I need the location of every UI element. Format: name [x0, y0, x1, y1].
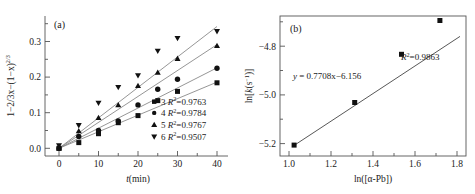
panel-b-ytick-0: −4.8 — [259, 42, 276, 52]
panel-a-x-ticks — [59, 151, 217, 156]
panel-a-plot: 0.0 0.1 0.2 0.3 0 10 20 30 40 (a) — [0, 0, 237, 194]
panel-b-ytick-2: −5.2 — [259, 139, 276, 149]
panel-b-xtick-3: 1.6 — [409, 159, 421, 169]
panel-b-tag: (b) — [290, 23, 302, 35]
legend-item-4: 4 R2=0.9784 — [152, 107, 207, 118]
panel-a-series-6-points — [56, 29, 220, 148]
legend-label-4: 4 R2=0.9784 — [161, 107, 207, 118]
panel-b-r2-value: =0.9863 — [410, 52, 440, 62]
panel-a-xtick-1: 10 — [94, 159, 104, 169]
panel-a-xtick-4: 40 — [212, 159, 222, 169]
legend-r2-val-4: =0.9784 — [176, 108, 206, 118]
panel-a-y-ticks — [45, 24, 50, 149]
panel-b-yaxis-pre: ln[ — [244, 93, 254, 104]
panel-b-xtick-0: 1.0 — [283, 159, 295, 169]
panel-b-y-ticks — [280, 22, 285, 144]
panel-a-yaxis-title: 1−2/3x−(1−x)2/3 — [4, 55, 17, 116]
panel-a: 0.0 0.1 0.2 0.3 0 10 20 30 40 (a) — [0, 0, 237, 194]
panel-b-ytick-1: −5.0 — [259, 90, 276, 100]
panel-b-plot: −4.8 −5.0 −5.2 1.0 1.2 1.4 1.6 1.8 (b) — [238, 0, 475, 194]
panel-a-ytick-3: 0.3 — [29, 37, 41, 47]
figure-container: 0.0 0.1 0.2 0.3 0 10 20 30 40 (a) — [0, 0, 475, 194]
panel-a-xtick-3: 30 — [173, 159, 183, 169]
data-point-1 — [292, 143, 297, 148]
panel-a-xtick-0: 0 — [57, 159, 62, 169]
panel-b-xtick-1: 1.2 — [325, 159, 337, 169]
panel-b-xtick-2: 1.4 — [367, 159, 379, 169]
panel-b-equation: y = 0.7708x−6.156 — [292, 71, 362, 81]
data-point-4 — [437, 18, 442, 23]
legend-label-3: 3 R2=0.9763 — [161, 95, 207, 106]
legend-item-6: 6 R2=0.9507 — [151, 130, 206, 141]
panel-b-yaxis-post: )] — [244, 69, 255, 75]
panel-b-axes — [280, 16, 466, 156]
data-point-2 — [352, 100, 357, 105]
panel-b-data-points — [292, 18, 443, 148]
legend-label-5: 5 R2=0.9767 — [161, 119, 207, 130]
panel-b-xaxis-title: ln([α-Pb]) — [354, 174, 392, 185]
panel-a-ytick-1: 0.1 — [29, 108, 41, 118]
panel-a-ytick-0: 0.0 — [29, 144, 41, 154]
panel-a-yaxis-title-exponent: 2/3 — [4, 55, 11, 63]
legend-item-3: 3 R2=0.9763 — [152, 95, 207, 106]
legend-r2-val-5: =0.9767 — [176, 120, 206, 130]
legend-label-6: 6 R2=0.9507 — [161, 130, 207, 141]
panel-a-yaxis-title-main: 1−2/3x−(1−x) — [6, 63, 17, 117]
panel-b-xtick-4: 1.8 — [451, 159, 463, 169]
panel-b-x-ticks — [289, 151, 457, 156]
circle-marker — [152, 111, 156, 115]
panel-a-xaxis-title-unit: (min) — [129, 174, 150, 185]
legend-r2-val-6: =0.9507 — [176, 132, 206, 142]
panel-a-tag: (a) — [54, 19, 65, 31]
triangle-up-marker — [151, 122, 157, 127]
panel-b: −4.8 −5.0 −5.2 1.0 1.2 1.4 1.6 1.8 (b) — [238, 0, 475, 194]
legend-r2-val-3: =0.9763 — [176, 97, 206, 107]
legend-item-5: 5 R2=0.9767 — [151, 119, 206, 130]
panel-a-xaxis-title: t(min) — [126, 174, 150, 185]
panel-a-ytick-2: 0.2 — [29, 72, 41, 82]
panel-b-yaxis-title: ln[k(s−1)] — [243, 69, 255, 104]
panel-b-equation-body: = 0.7708x−6.156 — [297, 71, 362, 81]
panel-b-r2-annotation: R2=0.9863 — [400, 51, 440, 62]
triangle-down-marker — [151, 134, 157, 139]
square-marker — [152, 100, 156, 104]
panel-a-xtick-2: 20 — [133, 159, 143, 169]
